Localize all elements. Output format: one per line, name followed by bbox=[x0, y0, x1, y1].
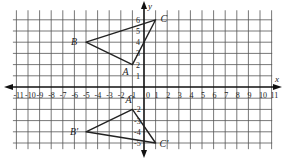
x-tick-label: 9 bbox=[247, 91, 251, 100]
vertex-label: C' bbox=[160, 138, 170, 149]
x-tick-label: 2 bbox=[166, 91, 170, 100]
x-tick-label: 4 bbox=[189, 91, 193, 100]
x-tick-label: 11 bbox=[271, 91, 279, 100]
y-tick-label: -4 bbox=[134, 128, 141, 137]
x-tick-label: -11 bbox=[13, 91, 23, 100]
grid-lines bbox=[13, 10, 272, 149]
y-axis-arrow-down-icon bbox=[141, 150, 147, 158]
vertex-label: B bbox=[71, 36, 77, 47]
x-tick-label: 1 bbox=[155, 91, 159, 100]
x-tick-label: -5 bbox=[83, 91, 90, 100]
x-axis-arrow-left-icon bbox=[4, 84, 13, 90]
x-tick-label: -4 bbox=[95, 91, 102, 100]
triangles: ABCA'B'C' bbox=[70, 13, 169, 149]
x-tick-label: -9 bbox=[37, 91, 44, 100]
vertex-label: A' bbox=[124, 94, 134, 105]
coordinate-plane: x y -11-10-9-8-7-6-5-4-3-2-1012345678910… bbox=[0, 0, 289, 163]
x-tick-label: 6 bbox=[213, 91, 217, 100]
y-tick-label: 4 bbox=[136, 38, 140, 47]
vertex-label: C bbox=[161, 13, 168, 24]
x-tick-label: 8 bbox=[236, 91, 240, 100]
y-tick-label: 2 bbox=[136, 61, 140, 70]
x-tick-label: 10 bbox=[259, 91, 267, 100]
x-tick-label: -10 bbox=[25, 91, 36, 100]
y-axis-arrow-up-icon bbox=[141, 1, 147, 9]
y-axis-label: y bbox=[147, 1, 152, 11]
vertex-label: A bbox=[121, 66, 129, 77]
x-tick-label: 7 bbox=[224, 91, 228, 100]
x-tick-label: -2 bbox=[118, 91, 125, 100]
y-tick-label: 5 bbox=[136, 27, 140, 36]
x-tick-label: -8 bbox=[48, 91, 55, 100]
x-tick-label: 3 bbox=[178, 91, 182, 100]
x-tick-label: 5 bbox=[201, 91, 205, 100]
x-tick-label: -7 bbox=[60, 91, 67, 100]
vertex-label: B' bbox=[70, 126, 79, 137]
x-tick-label: -6 bbox=[71, 91, 78, 100]
x-axis-label: x bbox=[274, 74, 279, 84]
y-tick-label: 6 bbox=[136, 16, 140, 25]
x-axis-arrow-right-icon bbox=[273, 84, 282, 90]
y-tick-label: 1 bbox=[136, 72, 140, 81]
x-tick-label: -3 bbox=[106, 91, 113, 100]
x-tick-label: 0 bbox=[146, 91, 150, 100]
